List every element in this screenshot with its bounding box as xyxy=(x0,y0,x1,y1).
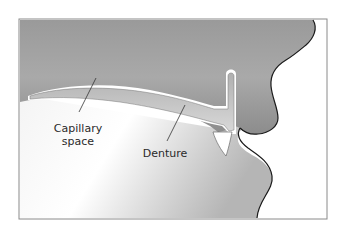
denture-label: Denture xyxy=(135,147,195,160)
capillary-space-label: Capillary space xyxy=(48,122,108,148)
denture-diagram xyxy=(0,0,360,232)
